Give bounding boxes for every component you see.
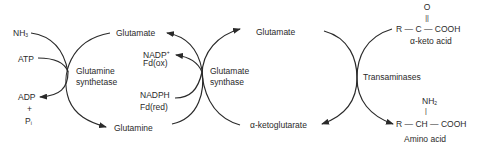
keto-acid-formula: R — C — COOH [396,24,460,34]
enzyme-line-1: Glutamate [210,66,249,77]
bond: — [405,24,414,34]
nadph-label: NADPH [140,90,170,100]
glutamate-synthase-enzyme: Glutamate synthase [210,66,249,88]
nh3-text: NH [13,28,25,38]
arc-nh3-in [31,33,68,72]
nh3-subscript: 3 [25,32,28,38]
fd-ox-label: Fd(ox) [143,58,168,68]
keto-acid-name: α-keto acid [410,36,452,46]
enzyme-line-1: Glutamine [76,66,117,77]
amine-subscript: 2 [434,100,437,106]
enzyme-line-2: synthase [210,77,249,88]
amino-carboxyl: COOH [441,119,467,129]
arc-nadph-in [175,72,202,98]
transaminases-enzyme: Transaminases [363,72,421,82]
plus-sign: + [27,104,32,114]
pi-subscript: i [31,120,32,126]
keto-carboxyl: COOH [435,24,461,34]
arc-adp-out [40,72,68,97]
fd-red-label: Fd(red) [140,102,168,112]
keto-carbon: C [415,24,421,34]
amine-single-bond: | [421,106,431,116]
diagram-canvas: NH3 ATP ADP + Pi Glutamine synthetase Gl… [0,0,491,154]
amino-acid-name: Amino acid [404,134,446,144]
keto-oxygen: O [422,2,432,12]
pi-label: Pi [25,116,32,128]
keto-double-bond: || [422,13,432,23]
atp-label: ATP [18,54,34,64]
glutamine-synthetase-enzyme: Glutamine synthetase [76,66,117,88]
amino-carbon: CH [415,119,427,129]
amino-acid-formula: R — CH — COOH [396,119,466,129]
glutamate-label-right: Glutamate [256,27,295,37]
glutamate-label-left: Glutamate [116,28,155,38]
bond: — [430,119,439,129]
glutamine-label: Glutamine [114,123,153,133]
bond: — [405,119,414,129]
keto-r-group: R [396,24,402,34]
nadp-superscript: + [167,49,170,55]
amine-text: NH [422,96,434,106]
bond: — [424,24,433,34]
nh3-label: NH3 [13,28,28,40]
enzyme-line-2: synthetase [76,77,117,88]
arc-atp-in [38,58,68,72]
adp-label: ADP [18,92,35,102]
arc-glutamate-to-akg [322,31,357,124]
alpha-ketoglutarate-label: α-ketoglutarate [250,120,307,130]
arc-glutamine-to-glutamate [167,33,203,124]
amino-r-group: R [396,119,402,129]
